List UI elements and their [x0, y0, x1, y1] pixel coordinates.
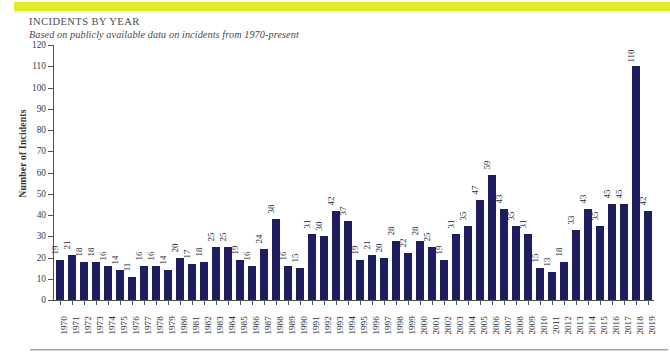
bar-column[interactable]: 22 [404, 45, 412, 300]
bar-column[interactable]: 11 [128, 45, 136, 300]
bar[interactable] [260, 249, 268, 300]
bar[interactable] [320, 236, 328, 300]
bar[interactable] [488, 175, 496, 300]
bar-column[interactable]: 35 [512, 45, 520, 300]
bar[interactable] [476, 200, 484, 300]
bar[interactable] [584, 209, 592, 300]
bar-column[interactable]: 33 [572, 45, 580, 300]
bar[interactable] [164, 270, 172, 300]
x-tick-label: 1975 [120, 316, 129, 334]
bar[interactable] [524, 234, 532, 300]
bar-column[interactable]: 45 [620, 45, 628, 300]
bar-column[interactable]: 19 [56, 45, 64, 300]
bar-column[interactable]: 25 [212, 45, 220, 300]
bar[interactable] [212, 247, 220, 300]
bar-column[interactable]: 14 [164, 45, 172, 300]
bar[interactable] [632, 66, 640, 300]
bar[interactable] [128, 277, 136, 300]
bar[interactable] [608, 204, 616, 300]
bar[interactable] [560, 262, 568, 300]
bar-column[interactable]: 31 [452, 45, 460, 300]
bar[interactable] [572, 230, 580, 300]
bar[interactable] [464, 226, 472, 300]
bar-column[interactable]: 18 [80, 45, 88, 300]
bar[interactable] [536, 268, 544, 300]
bar[interactable] [416, 241, 424, 301]
bar[interactable] [236, 260, 244, 300]
bar-column[interactable]: 59 [488, 45, 496, 300]
bar-column[interactable]: 13 [548, 45, 556, 300]
bar[interactable] [380, 258, 388, 301]
bar-column[interactable]: 20 [380, 45, 388, 300]
bar-column[interactable]: 16 [248, 45, 256, 300]
bar-column[interactable]: 110 [632, 45, 640, 300]
bar-column[interactable]: 37 [344, 45, 352, 300]
bar-column[interactable]: 18 [200, 45, 208, 300]
bar[interactable] [428, 247, 436, 300]
bar-column[interactable]: 19 [356, 45, 364, 300]
bar[interactable] [200, 262, 208, 300]
bar[interactable] [356, 260, 364, 300]
bar[interactable] [596, 226, 604, 300]
bar-column[interactable]: 18 [92, 45, 100, 300]
bar-column[interactable]: 38 [272, 45, 280, 300]
bar-column[interactable]: 35 [596, 45, 604, 300]
bar[interactable] [224, 247, 232, 300]
bar[interactable] [500, 209, 508, 300]
bar[interactable] [284, 266, 292, 300]
bar[interactable] [140, 266, 148, 300]
bar[interactable] [104, 266, 112, 300]
bar-column[interactable]: 21 [368, 45, 376, 300]
bar-value-label: 15 [291, 254, 300, 263]
bar[interactable] [392, 241, 400, 301]
bar[interactable] [620, 204, 628, 300]
y-tick-label: 120 [32, 40, 46, 50]
bar-column[interactable]: 25 [428, 45, 436, 300]
bar-series: 1921181816141116161420171825251916243816… [54, 45, 654, 300]
bar[interactable] [296, 268, 304, 300]
bar-column[interactable]: 43 [500, 45, 508, 300]
bar-column[interactable]: 42 [332, 45, 340, 300]
bar[interactable] [152, 266, 160, 300]
x-tick-mark [192, 301, 193, 305]
bar[interactable] [440, 260, 448, 300]
bar-column[interactable]: 24 [260, 45, 268, 300]
bar[interactable] [548, 272, 556, 300]
bar[interactable] [188, 264, 196, 300]
bar[interactable] [116, 270, 124, 300]
bar-column[interactable]: 19 [236, 45, 244, 300]
bar-column[interactable]: 35 [464, 45, 472, 300]
bar-column[interactable]: 19 [440, 45, 448, 300]
bar[interactable] [92, 262, 100, 300]
bar-column[interactable]: 45 [608, 45, 616, 300]
bar-column[interactable]: 21 [68, 45, 76, 300]
bar-column[interactable]: 15 [296, 45, 304, 300]
bar-column[interactable]: 43 [584, 45, 592, 300]
bar[interactable] [512, 226, 520, 300]
bar[interactable] [452, 234, 460, 300]
bar-column[interactable]: 18 [560, 45, 568, 300]
bar[interactable] [80, 262, 88, 300]
bar-column[interactable]: 47 [476, 45, 484, 300]
bar[interactable] [56, 260, 64, 300]
bar-column[interactable]: 28 [392, 45, 400, 300]
bar[interactable] [176, 258, 184, 301]
bar-column[interactable]: 16 [140, 45, 148, 300]
bar-column[interactable]: 42 [644, 45, 652, 300]
bar[interactable] [404, 253, 412, 300]
bar[interactable] [68, 255, 76, 300]
bar-column[interactable]: 31 [308, 45, 316, 300]
x-tick-mark [636, 301, 637, 305]
bar[interactable] [308, 234, 316, 300]
bar-column[interactable]: 28 [416, 45, 424, 300]
bar[interactable] [248, 266, 256, 300]
bar-column[interactable]: 25 [224, 45, 232, 300]
bar[interactable] [344, 221, 352, 300]
bar-column[interactable]: 30 [320, 45, 328, 300]
bar-column[interactable]: 17 [188, 45, 196, 300]
bar-value-label: 13 [543, 258, 552, 267]
bar[interactable] [332, 211, 340, 300]
bar[interactable] [644, 211, 652, 300]
bar-column[interactable]: 20 [176, 45, 184, 300]
bar[interactable] [368, 255, 376, 300]
